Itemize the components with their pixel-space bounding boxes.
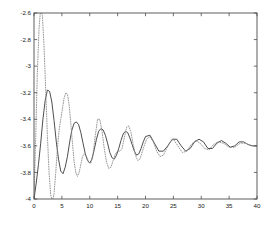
- x-tick-label: 30: [198, 202, 205, 209]
- y-tick-label: -3.6: [20, 142, 31, 149]
- x-tick-label: 10: [86, 202, 93, 209]
- x-tick-label: 15: [114, 202, 121, 209]
- y-tick-label: -3.8: [20, 169, 31, 176]
- x-tick-label: 0: [32, 202, 36, 209]
- x-tick-label: 40: [254, 202, 261, 209]
- y-tick-label: -4: [25, 195, 31, 202]
- x-tick-label: 25: [170, 202, 177, 209]
- chart-background: [0, 0, 272, 226]
- y-tick-label: -2.6: [20, 9, 31, 16]
- x-tick-label: 35: [226, 202, 233, 209]
- line-chart: 0510152025303540-4-3.8-3.6-3.4-3.2-3-2.8…: [0, 0, 272, 226]
- x-tick-label: 5: [60, 202, 64, 209]
- y-tick-label: -3: [25, 62, 31, 69]
- y-tick-label: -2.8: [20, 36, 31, 43]
- figure-container: 0510152025303540-4-3.8-3.6-3.4-3.2-3-2.8…: [0, 0, 272, 226]
- x-tick-label: 20: [142, 202, 149, 209]
- y-tick-label: -3.4: [20, 115, 31, 122]
- y-tick-label: -3.2: [20, 89, 31, 96]
